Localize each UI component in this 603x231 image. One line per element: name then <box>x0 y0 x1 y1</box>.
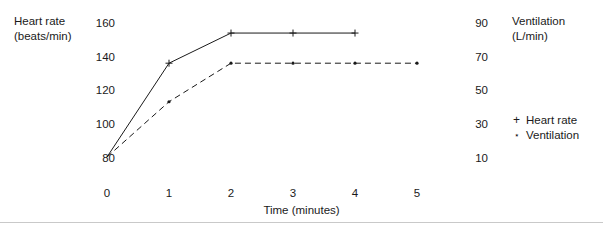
series-line-heart-rate <box>107 33 355 157</box>
series-line-ventilation <box>107 63 417 157</box>
x-tick-2: 2 <box>221 186 241 200</box>
y-axis-left-title-line1: Heart rate <box>14 14 72 29</box>
y-tick-right-90: 90 <box>462 16 488 30</box>
data-point-heart-rate-2 <box>228 30 235 37</box>
y-tick-left-120: 120 <box>80 83 115 97</box>
y-tick-right-70: 70 <box>462 50 488 64</box>
y-tick-left-100: 100 <box>80 117 115 131</box>
y-axis-right-title: Ventilation (L/min) <box>512 14 565 43</box>
x-tick-5: 5 <box>407 186 427 200</box>
data-point-ventilation-4 <box>353 62 356 65</box>
data-point-ventilation-2 <box>229 62 232 65</box>
x-tick-0: 0 <box>97 186 117 200</box>
bottom-divider <box>0 222 603 223</box>
data-point-heart-rate-3 <box>290 30 297 37</box>
y-axis-left-title: Heart rate (beats/min) <box>14 14 72 43</box>
data-point-ventilation-3 <box>291 62 294 65</box>
data-point-heart-rate-1 <box>166 60 173 67</box>
legend-label-heart-rate: Heart rate <box>526 113 577 128</box>
x-tick-4: 4 <box>345 186 365 200</box>
legend-label-ventilation: Ventilation <box>526 128 579 143</box>
x-axis-title: Time (minutes) <box>0 203 603 217</box>
data-point-ventilation-1 <box>167 100 170 103</box>
y-tick-right-50: 50 <box>462 83 488 97</box>
y-tick-left-80: 80 <box>80 151 115 165</box>
chart-legend: + Heart rate ⋆ Ventilation <box>512 113 579 144</box>
chart-figure: Heart rate (beats/min) Ventilation (L/mi… <box>0 0 603 231</box>
legend-item-heart-rate: + Heart rate <box>512 113 579 128</box>
data-point-ventilation-5 <box>415 62 418 65</box>
y-axis-left-title-line2: (beats/min) <box>14 29 72 44</box>
y-tick-left-160: 160 <box>80 16 115 30</box>
y-axis-right-title-line1: Ventilation <box>512 14 565 29</box>
y-tick-right-10: 10 <box>462 151 488 165</box>
x-tick-3: 3 <box>283 186 303 200</box>
y-tick-left-140: 140 <box>80 50 115 64</box>
x-tick-1: 1 <box>159 186 179 200</box>
data-point-heart-rate-4 <box>352 30 359 37</box>
y-axis-right-title-line2: (L/min) <box>512 29 565 44</box>
legend-item-ventilation: ⋆ Ventilation <box>512 128 579 144</box>
star-marker-icon: ⋆ <box>512 128 521 143</box>
y-tick-right-30: 30 <box>462 117 488 131</box>
plus-marker-icon: + <box>512 113 521 128</box>
